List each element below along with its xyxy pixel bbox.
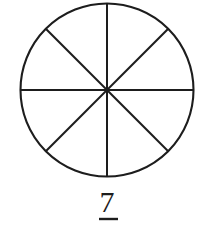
pie-circle-group: [21, 4, 194, 177]
fraction-figure: 7: [0, 0, 204, 230]
pie-fraction-diagram: 7: [0, 0, 204, 230]
numerator-numeral: 7: [100, 185, 115, 218]
